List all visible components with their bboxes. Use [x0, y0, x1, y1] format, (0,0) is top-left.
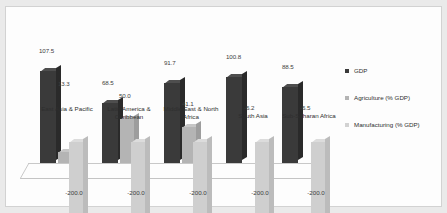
- bar-front-face: [69, 142, 83, 213]
- bar-value-label: 50.0: [119, 92, 131, 99]
- legend-swatch-icon: [345, 96, 349, 100]
- axis-tick-label: -200.0: [54, 189, 94, 196]
- bar-group: 88.5 -6.5 Sub-Saharan Africa -200.0: [278, 17, 340, 185]
- axis-tick-label: -200.0: [296, 189, 336, 196]
- bar-front-face: [40, 71, 56, 163]
- bar-front-face: [131, 142, 145, 213]
- bar-front-face: [226, 77, 242, 163]
- bar-side-face: [145, 136, 150, 213]
- legend-item-agriculture[interactable]: Agriculture (% GDP): [344, 94, 440, 102]
- bar-value-label: 13.3: [58, 80, 70, 87]
- plot-area: 107.5 13.3 East Asia & Pacific -200.0: [20, 17, 330, 197]
- bar-manufacturing[interactable]: [255, 142, 269, 213]
- bar-front-face: [193, 142, 207, 213]
- bar-side-face: [83, 136, 88, 213]
- bar-manufacturing[interactable]: [131, 142, 145, 213]
- bar-manufacturing[interactable]: [311, 142, 325, 213]
- bar-front-face: [255, 142, 269, 213]
- bar-gdp[interactable]: [226, 77, 242, 163]
- legend-label: GDP: [354, 67, 367, 74]
- bar-group: 91.7 41.1 Middle East & North Africa -20…: [160, 17, 222, 185]
- bar-side-face: [269, 136, 274, 213]
- bar-front-face: [311, 142, 325, 213]
- bar-manufacturing[interactable]: [69, 142, 83, 213]
- bar-front-face: [164, 83, 180, 163]
- bar-value-label: 91.7: [164, 59, 176, 66]
- bar-value-label: -6.2: [244, 104, 254, 111]
- chart-frame: 107.5 13.3 East Asia & Pacific -200.0: [5, 6, 442, 207]
- bar-value-label: 100.8: [226, 53, 241, 60]
- bar-gdp[interactable]: [164, 83, 180, 163]
- bar-group: 68.5 50.0 Latin America & Caribbean -200…: [98, 17, 160, 185]
- axis-tick-label: -200.0: [116, 189, 156, 196]
- bar-value-label: -6.5: [300, 104, 310, 111]
- bar-group: 100.8 -6.2 South Asia -200.0: [222, 17, 284, 185]
- bar-gdp[interactable]: [282, 87, 298, 163]
- category-label: Sub-Saharan Africa: [278, 112, 340, 120]
- legend-label: Agriculture (% GDP): [354, 94, 410, 101]
- legend-item-gdp[interactable]: GDP: [344, 67, 440, 75]
- bar-gdp[interactable]: [40, 71, 56, 163]
- legend-swatch-icon: [345, 123, 349, 127]
- axis-tick-label: -200.0: [178, 189, 218, 196]
- legend-swatch-icon: [345, 69, 349, 73]
- bar-side-face: [207, 136, 212, 213]
- bar-side-face: [298, 81, 303, 160]
- floor-left-edge: [20, 163, 31, 179]
- bar-value-label: 107.5: [39, 47, 54, 54]
- bar-front-face: [282, 87, 298, 163]
- legend-item-manufacturing[interactable]: Manufacturing (% GDP): [344, 121, 440, 129]
- legend-label: Manufacturing (% GDP): [354, 121, 420, 128]
- bar-value-label: 68.5: [102, 79, 114, 86]
- axis-tick-label: -200.0: [240, 189, 280, 196]
- category-label: Middle East & North Africa: [160, 105, 222, 120]
- category-label: East Asia & Pacific: [36, 105, 98, 113]
- bar-group: 107.5 13.3 East Asia & Pacific -200.0: [36, 17, 98, 185]
- bar-side-face: [325, 136, 330, 213]
- chart-screenshot: 107.5 13.3 East Asia & Pacific -200.0: [0, 0, 447, 213]
- bar-manufacturing[interactable]: [193, 142, 207, 213]
- chart-legend: GDP Agriculture (% GDP) Manufacturing (%…: [344, 67, 440, 148]
- category-label: Latin America & Caribbean: [98, 105, 160, 120]
- category-label: South Asia: [222, 112, 284, 120]
- bar-value-label: 88.5: [282, 63, 294, 70]
